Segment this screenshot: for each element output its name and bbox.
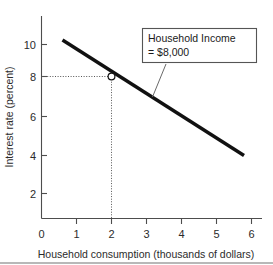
x-tick-label-6: 6 bbox=[248, 228, 254, 240]
x-tick-label-1: 1 bbox=[73, 228, 79, 240]
y-axis-title: Interest rate (percent) bbox=[3, 67, 15, 168]
y-tick-label-4: 4 bbox=[30, 150, 36, 162]
y-tick-label-6: 6 bbox=[30, 111, 36, 123]
x-tick-label-5: 5 bbox=[213, 228, 219, 240]
x-tick-label-2: 2 bbox=[108, 228, 114, 240]
y-tick-label-8: 8 bbox=[30, 71, 36, 83]
y-tick-labels: 10 8 6 4 2 bbox=[24, 39, 36, 200]
x-tick-label-4: 4 bbox=[178, 228, 184, 240]
x-tick-label-3: 3 bbox=[143, 228, 149, 240]
callout-line-2: = $8,000 bbox=[148, 46, 189, 58]
callout-leader-line bbox=[153, 64, 167, 97]
y-tick-marks bbox=[42, 45, 48, 194]
x-tick-labels: 0 1 2 3 4 5 6 bbox=[38, 228, 254, 240]
marked-point-2-8 bbox=[108, 73, 115, 80]
interest-rate-consumption-chart: 10 8 6 4 2 0 1 2 3 4 5 6 Household consu… bbox=[0, 0, 273, 265]
chart-figure: 10 8 6 4 2 0 1 2 3 4 5 6 Household consu… bbox=[0, 0, 273, 265]
guide-lines-group bbox=[42, 77, 112, 219]
y-tick-label-2: 2 bbox=[30, 188, 36, 200]
x-axis-title: Household consumption (thousands of doll… bbox=[38, 248, 255, 260]
y-tick-label-10: 10 bbox=[24, 39, 36, 51]
callout-line-1: Household Income bbox=[148, 32, 236, 44]
x-tick-label-0: 0 bbox=[38, 228, 44, 240]
x-tick-marks bbox=[77, 219, 252, 225]
